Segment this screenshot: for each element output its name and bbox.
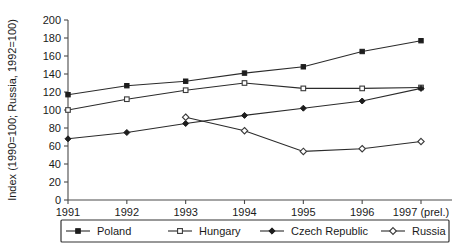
legend-label: Russia: [412, 225, 447, 237]
data-point-marker-filled-diamond: [65, 136, 71, 142]
data-point-marker-open-diamond: [182, 114, 188, 120]
x-tick-label: 1994: [232, 206, 256, 218]
data-point-marker-open-diamond: [300, 148, 306, 154]
data-point-marker-filled-square: [66, 93, 70, 97]
data-point-marker-open-square: [301, 86, 306, 91]
x-tick-label: 1992: [115, 206, 139, 218]
data-point-marker-filled-square: [76, 229, 81, 234]
x-tick-label: 1995: [291, 206, 315, 218]
y-tick-label: 140: [43, 68, 61, 80]
data-point-marker-filled-diamond: [359, 98, 365, 104]
data-point-marker-filled-diamond: [124, 130, 130, 136]
data-point-marker-filled-diamond: [300, 105, 306, 111]
y-tick-label: 20: [49, 176, 61, 188]
y-axis-title: Index (1990=100; Russia, 1992=100): [6, 19, 18, 201]
y-tick-label: 0: [55, 194, 61, 206]
y-tick-label: 40: [49, 158, 61, 170]
data-point-marker-filled-square: [125, 84, 129, 88]
series-hungary: [66, 81, 424, 113]
legend-label: Czech Republic: [291, 225, 369, 237]
x-tick-label: 1997 (prel.): [393, 206, 449, 218]
data-point-marker-filled-diamond: [242, 112, 248, 118]
chart-container: Index (1990=100; Russia, 1992=100) 02040…: [0, 0, 464, 248]
data-point-marker-open-diamond: [241, 128, 247, 134]
y-tick-label: 80: [49, 122, 61, 134]
legend-label: Hungary: [199, 225, 241, 237]
x-axis-ticks: 1991199219931994199519961997 (prel.): [56, 200, 449, 218]
data-point-marker-filled-square: [242, 71, 246, 75]
y-tick-label: 120: [43, 86, 61, 98]
data-point-marker-open-diamond: [418, 138, 424, 144]
line-chart: Index (1990=100; Russia, 1992=100) 02040…: [0, 0, 464, 248]
data-point-marker-filled-square: [360, 49, 364, 53]
y-tick-label: 60: [49, 140, 61, 152]
x-tick-label: 1996: [350, 206, 374, 218]
data-point-marker-open-square: [125, 97, 130, 102]
x-tick-label: 1991: [56, 206, 80, 218]
data-point-marker-filled-square: [301, 65, 305, 69]
y-tick-label: 180: [43, 32, 61, 44]
data-point-marker-open-square: [360, 86, 365, 91]
data-point-marker-open-square: [242, 81, 247, 86]
legend-label: Poland: [97, 225, 131, 237]
series-line: [68, 41, 421, 95]
series-line: [186, 117, 421, 151]
y-tick-label: 160: [43, 50, 61, 62]
y-tick-label: 200: [43, 14, 61, 26]
data-point-marker-filled-square: [183, 79, 187, 83]
data-point-marker-open-square: [183, 88, 188, 93]
chart-legend: PolandHungaryCzech RepublicRussia: [61, 220, 449, 242]
data-point-marker-filled-diamond: [183, 121, 189, 127]
series-group: [65, 39, 424, 155]
y-axis-ticks: 020406080100120140160180200: [43, 14, 68, 206]
y-tick-label: 100: [43, 104, 61, 116]
series-russia: [182, 114, 424, 155]
data-point-marker-open-diamond: [359, 146, 365, 152]
data-point-marker-filled-square: [419, 39, 423, 43]
data-point-marker-open-square: [178, 229, 183, 234]
x-tick-label: 1993: [173, 206, 197, 218]
y-axis-title-text: Index (1990=100; Russia, 1992=100): [6, 19, 18, 201]
data-point-marker-open-square: [66, 108, 71, 113]
